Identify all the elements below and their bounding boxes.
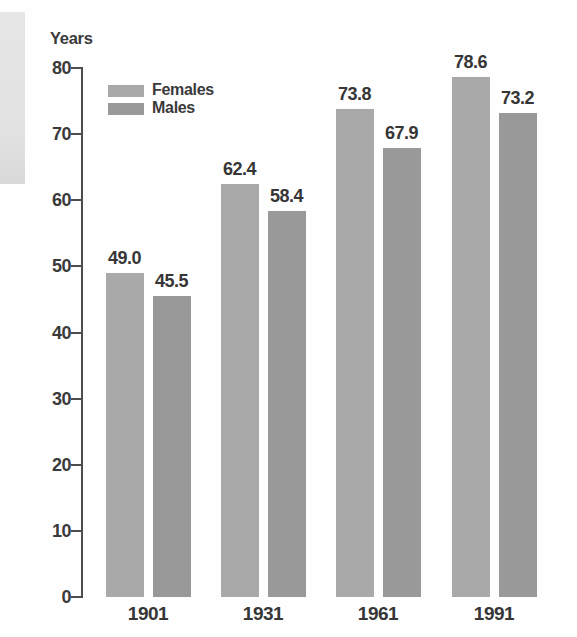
- bar-value-label: 73.8: [325, 84, 385, 105]
- bar-females-1991: [452, 77, 490, 597]
- legend-label-males: Males: [152, 99, 195, 117]
- y-axis-tick: [71, 332, 81, 334]
- y-axis-tick-label: 70: [31, 124, 71, 144]
- y-axis-tick-label: 10: [31, 521, 71, 541]
- bar-value-label: 49.0: [95, 248, 155, 269]
- y-axis-tick: [71, 596, 81, 598]
- bar-males-1931: [268, 211, 306, 597]
- bar-females-1961: [336, 109, 374, 597]
- bar-value-label: 62.4: [210, 159, 270, 180]
- legend-swatch-females: [108, 85, 144, 97]
- bar-females-1931: [221, 184, 259, 597]
- y-axis-tick: [71, 67, 81, 69]
- y-axis-tick-label: 0: [31, 587, 71, 607]
- bar-value-label: 45.5: [142, 271, 202, 292]
- bar-value-label: 73.2: [488, 88, 548, 109]
- y-axis-tick-label: 80: [31, 58, 71, 78]
- y-axis-tick: [71, 199, 81, 201]
- x-axis-category-label: 1991: [454, 603, 534, 625]
- y-axis-tick-label: 50: [31, 256, 71, 276]
- bar-value-label: 78.6: [441, 52, 501, 73]
- y-axis-tick-label: 20: [31, 455, 71, 475]
- legend-label-females: Females: [152, 81, 214, 99]
- x-axis-category-label: 1901: [108, 603, 188, 625]
- bar-males-1901: [153, 296, 191, 597]
- bar-females-1901: [106, 273, 144, 597]
- legend-swatch-males: [108, 103, 144, 115]
- life-expectancy-bar-chart: Years Females Males 0102030405060708049.…: [0, 0, 577, 637]
- y-axis-tick-label: 40: [31, 323, 71, 343]
- page-edge-strip: [0, 12, 25, 184]
- y-axis-tick-label: 30: [31, 389, 71, 409]
- bar-value-label: 67.9: [372, 123, 432, 144]
- bar-males-1991: [499, 113, 537, 597]
- y-axis-tick-label: 60: [31, 190, 71, 210]
- x-axis-category-label: 1961: [338, 603, 418, 625]
- y-axis-tick: [71, 398, 81, 400]
- y-axis-title: Years: [50, 29, 93, 48]
- y-axis-tick: [71, 464, 81, 466]
- y-axis-tick: [71, 133, 81, 135]
- bar-males-1961: [383, 148, 421, 597]
- y-axis-tick: [71, 265, 81, 267]
- y-axis-line: [81, 67, 83, 598]
- bar-value-label: 58.4: [257, 186, 317, 207]
- x-axis-category-label: 1931: [223, 603, 303, 625]
- y-axis-tick: [71, 530, 81, 532]
